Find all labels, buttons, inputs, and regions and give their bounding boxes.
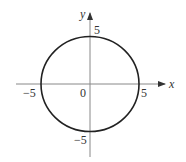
origin-label: 0 [80, 86, 86, 100]
x-axis-label: x [168, 77, 175, 91]
circle-plot: x y 5 −5 0 5 −5 [0, 0, 186, 162]
x-tick-label-neg5: −5 [23, 86, 36, 100]
x-tick-label-pos5: 5 [141, 86, 147, 100]
y-axis-label: y [79, 7, 86, 21]
y-tick-label-pos5: 5 [94, 23, 100, 37]
y-tick-label-neg5: −5 [74, 133, 87, 147]
